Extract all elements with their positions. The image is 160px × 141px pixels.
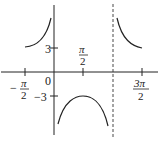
csc-graph: 3 −3 0 π 2 − π 2 3π 2 [0, 0, 160, 141]
branch-right [117, 18, 142, 48]
branch-middle [58, 96, 108, 126]
y-label-3: 3 [45, 42, 51, 56]
three-pi-half-num: 3π [133, 77, 146, 89]
neg-sign: − [10, 81, 17, 95]
neg-pi-half-num: π [21, 77, 27, 89]
pi-half-den: 2 [80, 55, 86, 67]
neg-pi-half-den: 2 [21, 89, 27, 101]
three-pi-half-den: 2 [138, 90, 144, 102]
y-label-neg3: −3 [34, 90, 47, 104]
origin-label: 0 [45, 74, 51, 88]
pi-half-num: π [79, 43, 85, 55]
